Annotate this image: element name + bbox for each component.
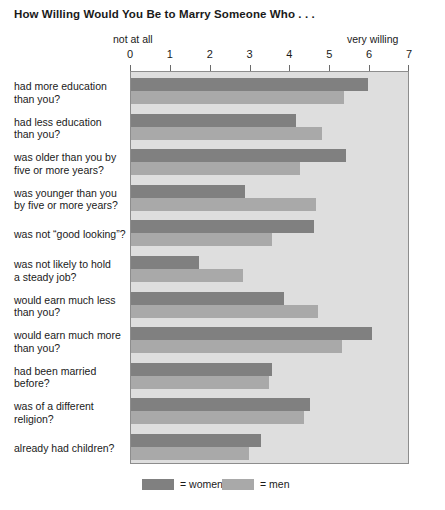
legend-swatch-men-icon [222, 479, 254, 490]
bar-men-8 [131, 376, 269, 389]
x-tick-label-2: 2 [207, 48, 213, 60]
scale-anchor-low-label: not at all [113, 33, 153, 45]
bar-women-2 [131, 149, 346, 162]
category-label-5: was not likely to hold a steady job? [14, 258, 130, 283]
bar-men-10 [131, 447, 249, 460]
category-label-7: would earn much more than you? [14, 329, 130, 354]
bar-men-6 [131, 305, 318, 318]
legend-swatch-women-icon [142, 479, 174, 490]
bar-women-4 [131, 220, 314, 233]
x-tick-label-5: 5 [326, 48, 332, 60]
category-label-6: would earn much less than you? [14, 294, 130, 319]
bar-men-2 [131, 162, 300, 175]
bar-men-9 [131, 411, 304, 424]
category-label-0: had more education than you? [14, 80, 130, 105]
bar-women-0 [131, 78, 368, 91]
bar-women-1 [131, 114, 296, 127]
x-tick-label-7: 7 [406, 48, 412, 60]
bar-women-6 [131, 292, 284, 305]
legend-item-men: = men [222, 478, 289, 490]
category-label-10: already had children? [14, 442, 130, 455]
x-tick-label-3: 3 [247, 48, 253, 60]
scale-anchor-high-label: very willing [347, 33, 398, 45]
bar-men-7 [131, 340, 342, 353]
bar-men-5 [131, 269, 243, 282]
bar-men-1 [131, 127, 322, 140]
x-tick-label-4: 4 [286, 48, 292, 60]
category-label-4: was not “good looking”? [14, 228, 130, 241]
bar-men-4 [131, 233, 272, 246]
bar-women-5 [131, 256, 199, 269]
category-label-2: was older than you by five or more years… [14, 151, 130, 176]
plot-area [130, 71, 409, 464]
bar-men-3 [131, 198, 316, 211]
bar-women-3 [131, 185, 245, 198]
bar-women-10 [131, 434, 261, 447]
legend-label-men: = men [260, 478, 289, 490]
chart-title: How Willing Would You Be to Marry Someon… [14, 8, 315, 20]
category-label-1: had less education than you? [14, 116, 130, 141]
x-tick-label-0: 0 [127, 48, 133, 60]
category-label-3: was younger than you by five or more yea… [14, 187, 130, 212]
x-tick-label-6: 6 [366, 48, 372, 60]
x-tick-label-1: 1 [167, 48, 173, 60]
bar-men-0 [131, 91, 344, 104]
category-label-8: had been married before? [14, 365, 130, 390]
category-label-9: was of a different religion? [14, 400, 130, 425]
chart-figure: How Willing Would You Be to Marry Someon… [0, 0, 445, 510]
legend-label-women: = women [180, 478, 223, 490]
bar-women-9 [131, 398, 310, 411]
bar-women-7 [131, 327, 372, 340]
legend-item-women: = women [142, 478, 223, 490]
bar-women-8 [131, 363, 272, 376]
